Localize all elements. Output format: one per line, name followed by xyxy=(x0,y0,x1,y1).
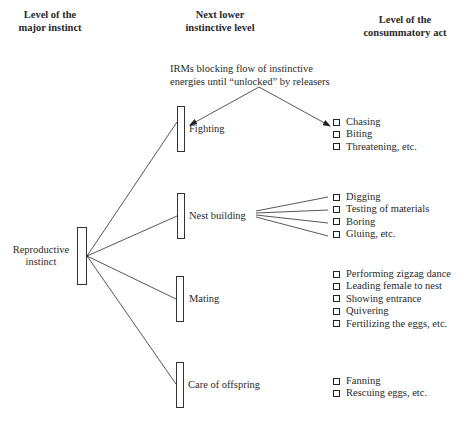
line-to-care xyxy=(87,256,176,384)
care-of-offspring-label: Care of offspring xyxy=(188,379,260,391)
fan-boring xyxy=(256,215,328,223)
checkbox-icon xyxy=(333,218,340,225)
major-instinct-bar xyxy=(77,227,87,285)
act-item: Biting xyxy=(332,128,417,140)
act-label: Fertilizing the eggs, etc. xyxy=(346,318,447,329)
nest-building-label: Nest building xyxy=(189,210,246,222)
mating-acts: Performing zigzag dance Leading female t… xyxy=(332,268,451,330)
checkbox-icon xyxy=(333,378,340,385)
act-item: Digging xyxy=(332,191,429,203)
checkbox-icon xyxy=(333,390,340,397)
act-item: Rescuing eggs, etc. xyxy=(332,387,427,399)
act-label: Fanning xyxy=(346,375,380,386)
act-label: Biting xyxy=(346,128,372,139)
major-instinct-label-line1: Reproductive xyxy=(8,244,74,256)
act-label: Showing entrance xyxy=(346,293,422,304)
mating-label: Mating xyxy=(189,293,219,305)
checkbox-icon xyxy=(333,271,340,278)
arrow-to-consummatory-irm xyxy=(259,87,330,126)
checkbox-icon xyxy=(333,308,340,315)
act-label: Boring xyxy=(346,216,375,227)
act-item: Fanning xyxy=(332,375,427,387)
checkbox-icon xyxy=(333,283,340,290)
nest-building-bar xyxy=(177,193,185,239)
fighting-acts: Chasing Biting Threatening, etc. xyxy=(332,116,417,153)
act-label: Performing zigzag dance xyxy=(346,268,451,279)
act-item: Showing entrance xyxy=(332,293,451,305)
care-of-offspring-bar xyxy=(176,362,184,408)
act-item: Gluing, etc. xyxy=(332,228,429,240)
act-item: Quivering xyxy=(332,305,451,317)
care-of-offspring-acts: Fanning Rescuing eggs, etc. xyxy=(332,375,427,400)
act-label: Rescuing eggs, etc. xyxy=(346,387,427,398)
act-item: Performing zigzag dance xyxy=(332,268,451,280)
act-item: Leading female to nest xyxy=(332,280,451,292)
nest-building-acts: Digging Testing of materials Boring Glui… xyxy=(332,191,429,241)
mating-bar xyxy=(176,276,184,322)
act-label: Digging xyxy=(346,191,380,202)
checkbox-icon xyxy=(333,320,340,327)
act-item: Fertilizing the eggs, etc. xyxy=(332,318,451,330)
act-label: Threatening, etc. xyxy=(346,141,417,152)
act-label: Leading female to nest xyxy=(346,280,442,291)
line-to-mating xyxy=(87,256,176,299)
act-label: Quivering xyxy=(346,305,389,316)
act-item: Boring xyxy=(332,216,429,228)
fighting-label: Fighting xyxy=(189,123,225,135)
fan-digging xyxy=(256,197,328,211)
checkbox-icon xyxy=(333,206,340,213)
checkbox-icon xyxy=(333,119,340,126)
fighting-bar xyxy=(177,106,185,152)
act-item: Threatening, etc. xyxy=(332,141,417,153)
checkbox-icon xyxy=(333,194,340,201)
major-instinct-label: Reproductive instinct xyxy=(8,244,74,268)
act-item: Chasing xyxy=(332,116,417,128)
fan-gluing xyxy=(256,217,328,236)
act-label: Gluing, etc. xyxy=(346,228,395,239)
checkbox-icon xyxy=(333,295,340,302)
checkbox-icon xyxy=(333,131,340,138)
arrow-to-fighting-irm xyxy=(190,87,259,125)
act-label: Testing of materials xyxy=(346,203,429,214)
act-item: Testing of materials xyxy=(332,203,429,215)
checkbox-icon xyxy=(333,231,340,238)
major-instinct-label-line2: instinct xyxy=(8,256,74,268)
act-label: Chasing xyxy=(346,116,380,127)
checkbox-icon xyxy=(333,143,340,150)
fan-testing xyxy=(256,210,328,213)
